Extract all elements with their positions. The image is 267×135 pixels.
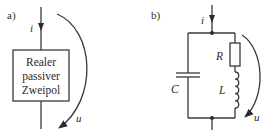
current-arrow-icon xyxy=(209,15,215,23)
voltage-arrow-icon xyxy=(242,35,260,117)
top-node xyxy=(210,31,214,35)
panel-b: b) i C R L u xyxy=(151,5,260,130)
panel-a: a) i Realer passiver Zweipol u xyxy=(7,7,87,129)
inductor xyxy=(235,72,239,108)
current-arrow-icon xyxy=(38,23,44,31)
current-label: i xyxy=(201,14,204,26)
resistor-label: R xyxy=(215,50,223,62)
capacitor-label: C xyxy=(171,83,179,95)
box-line-1: Realer xyxy=(26,56,56,68)
panel-b-label: b) xyxy=(151,9,161,22)
box-line-2: passiver xyxy=(22,70,60,83)
resistor xyxy=(230,43,240,66)
box-line-3: Zweipol xyxy=(22,84,60,97)
circuit-diagram: a) i Realer passiver Zweipol u b) i C xyxy=(0,0,267,135)
voltage-label: u xyxy=(254,111,260,123)
inductor-label: L xyxy=(218,84,225,96)
current-label: i xyxy=(30,22,33,34)
voltage-label: u xyxy=(76,112,82,124)
panel-a-label: a) xyxy=(7,9,16,22)
